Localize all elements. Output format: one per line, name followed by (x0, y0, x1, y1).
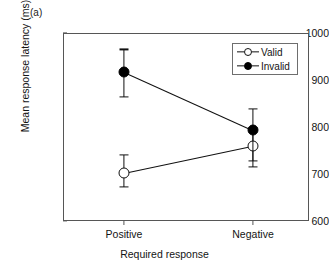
x-tick-mark-positive (123, 221, 124, 225)
error-bar-cap-invalid-0-1 (120, 96, 129, 97)
panel-label: (a) (30, 7, 42, 18)
data-point-invalid-negative (248, 124, 259, 135)
error-bar-cap-invalid-0-0 (120, 49, 129, 50)
legend-label-invalid: Invalid (261, 61, 290, 72)
data-point-valid-positive (119, 168, 130, 179)
error-bar-cap-valid-0-0 (120, 155, 129, 156)
x-axis-title: Required response (0, 248, 329, 260)
error-bar-cap-valid-0-1 (120, 187, 129, 188)
error-bar-invalid-1 (252, 109, 253, 167)
open-circle-icon (237, 46, 259, 58)
legend-item-valid: Valid (237, 45, 283, 59)
x-tick-label-negative: Negative (232, 228, 273, 240)
x-tick-label-positive: Positive (106, 228, 143, 240)
legend-label-valid: Valid (261, 47, 283, 58)
error-bar-cap-invalid-1-1 (249, 166, 258, 167)
data-point-invalid-positive (119, 66, 130, 77)
legend: Valid Invalid (232, 43, 298, 75)
chart-figure: (a) Mean response latency (ms) 1000 900 … (0, 0, 329, 271)
x-tick-mark-negative (252, 221, 253, 225)
error-bar-cap-invalid-1-0 (249, 109, 258, 110)
y-axis-title: Mean response latency (ms) (19, 0, 31, 151)
legend-item-invalid: Invalid (237, 59, 290, 73)
filled-circle-icon (237, 60, 259, 72)
